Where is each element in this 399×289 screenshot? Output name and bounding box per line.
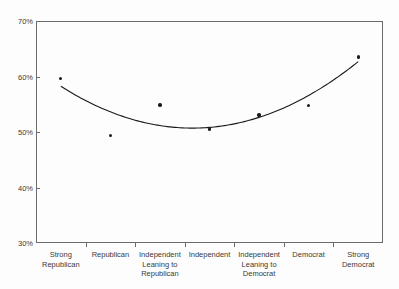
x-tick-mark-6	[333, 243, 334, 247]
x-tick-mark-1	[86, 243, 87, 247]
x-tick-label-strong-republican: Strong Republican	[33, 250, 89, 269]
x-tick-label-republican: Republican	[82, 250, 138, 260]
y-tick-label-30: 30%	[18, 239, 33, 248]
y-axis: 70% 60% 50% 40% 30%	[0, 0, 33, 289]
x-label-line: Democrat	[281, 250, 337, 260]
x-label-line: Democrat	[231, 269, 287, 279]
x-tick-label-independent: Independent	[182, 250, 238, 260]
x-label-line: Strong	[33, 250, 89, 260]
x-tick-mark-2	[135, 243, 136, 247]
x-label-line: Independent	[182, 250, 238, 260]
x-label-line: Independent	[231, 250, 287, 260]
x-label-line: Republican	[82, 250, 138, 260]
x-tick-label-democrat: Democrat	[281, 250, 337, 260]
x-tick-mark-3	[185, 243, 186, 247]
x-label-line: Republican	[132, 269, 188, 279]
x-label-line: Leaning to	[132, 260, 188, 270]
plot-area	[36, 21, 383, 243]
x-label-line: Leaning to	[231, 260, 287, 270]
x-label-line: Strong	[330, 250, 386, 260]
y-tick-label-50: 50%	[18, 128, 33, 137]
x-tick-label-independent-leaning-democrat: Independent Leaning to Democrat	[231, 250, 287, 279]
x-label-line: Independent	[132, 250, 188, 260]
x-tick-mark-5	[284, 243, 285, 247]
x-tick-mark-4	[234, 243, 235, 247]
x-label-line: Democrat	[330, 260, 386, 270]
y-tick-label-40: 40%	[18, 183, 33, 192]
x-tick-label-independent-leaning-republican: Independent Leaning to Republican	[132, 250, 188, 279]
x-label-line: Republican	[33, 260, 89, 270]
x-tick-label-strong-democrat: Strong Democrat	[330, 250, 386, 269]
chart-screenshot: 70% 60% 50% 40% 30% Strong Republican Re…	[0, 0, 399, 289]
y-tick-label-70: 70%	[18, 17, 33, 26]
y-tick-label-60: 60%	[18, 72, 33, 81]
